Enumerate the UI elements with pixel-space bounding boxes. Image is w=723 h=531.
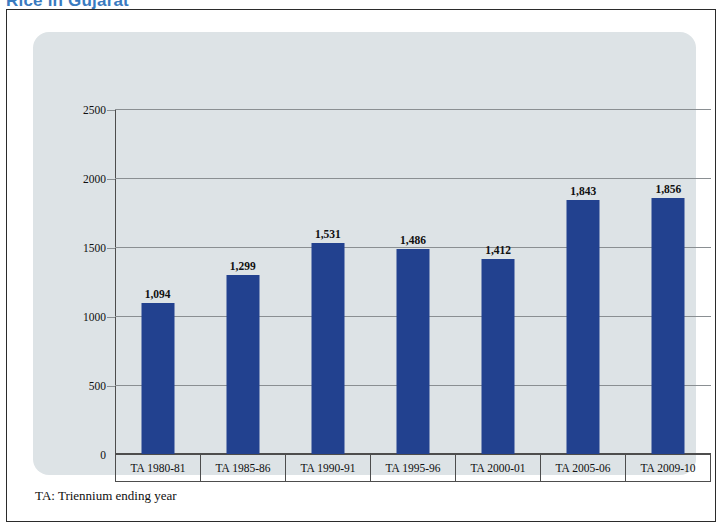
y-tick-mark bbox=[107, 386, 115, 387]
bar[interactable] bbox=[567, 200, 600, 454]
bar-cell: 1,843 bbox=[541, 109, 626, 454]
bar[interactable] bbox=[141, 303, 174, 454]
y-tick-mark bbox=[107, 317, 115, 318]
bar-value-label: 1,094 bbox=[145, 288, 171, 300]
x-axis-category: TA 2009-10 bbox=[626, 455, 710, 481]
bar-cell: 1,486 bbox=[370, 109, 455, 454]
x-axis-category: TA 1995-96 bbox=[371, 455, 456, 481]
y-tick-label: 500 bbox=[89, 380, 106, 392]
figure-footnote: TA: Triennium ending year bbox=[35, 488, 177, 504]
bar-cell: 1,412 bbox=[456, 109, 541, 454]
chart-panel: 2500 2000 1500 1000 500 0 bbox=[33, 32, 696, 475]
plot-area: 2500 2000 1500 1000 500 0 bbox=[115, 109, 711, 454]
bar[interactable] bbox=[226, 275, 259, 454]
bar[interactable] bbox=[311, 243, 344, 454]
bar-value-label: 1,843 bbox=[570, 185, 596, 197]
bar-series: 1,094 1,299 1,531 1,486 1,412 bbox=[115, 109, 711, 454]
bar[interactable] bbox=[652, 198, 685, 454]
x-axis-category: TA 1985-86 bbox=[201, 455, 286, 481]
x-axis-category: TA 2000-01 bbox=[456, 455, 541, 481]
bar-cell: 1,531 bbox=[285, 109, 370, 454]
bar[interactable] bbox=[482, 259, 515, 454]
bar-value-label: 1,412 bbox=[485, 244, 511, 256]
bar-cell: 1,299 bbox=[200, 109, 285, 454]
y-tick-mark bbox=[107, 110, 115, 111]
bar-cell: 1,856 bbox=[626, 109, 711, 454]
y-tick-label: 2000 bbox=[83, 173, 106, 185]
bar-value-label: 1,531 bbox=[315, 228, 341, 240]
bar-value-label: 1,299 bbox=[230, 260, 256, 272]
bar-cell: 1,094 bbox=[115, 109, 200, 454]
y-tick-mark bbox=[107, 179, 115, 180]
bar[interactable] bbox=[396, 249, 429, 454]
x-axis-category-strip: TA 1980-81 TA 1985-86 TA 1990-91 TA 1995… bbox=[115, 454, 711, 482]
y-tick-label: 2500 bbox=[83, 104, 106, 116]
x-axis-category: TA 1990-91 bbox=[286, 455, 371, 481]
y-tick-label: 1500 bbox=[83, 242, 106, 254]
bar-value-label: 1,486 bbox=[400, 234, 426, 246]
y-tick-label: 1000 bbox=[83, 311, 106, 323]
y-tick-mark bbox=[107, 248, 115, 249]
figure-frame: Average triennium productivity in kg/ha … bbox=[6, 9, 716, 522]
bar-value-label: 1,856 bbox=[655, 183, 681, 195]
x-axis-category: TA 2005-06 bbox=[541, 455, 626, 481]
x-axis-category: TA 1980-81 bbox=[116, 455, 201, 481]
y-tick-label: 0 bbox=[100, 449, 106, 461]
